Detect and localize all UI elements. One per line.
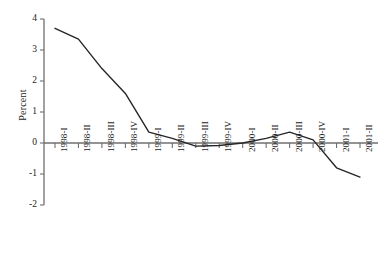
x-tick-label: 2000-IV	[317, 121, 327, 152]
x-tick-label: 1999-III	[200, 121, 210, 152]
data-series-line	[55, 28, 360, 177]
chart-container: Percent 43210-1-2 1998-I1998-II1998-III1…	[0, 0, 384, 260]
y-tick-label: 3	[17, 45, 37, 55]
y-tick-label: 1	[17, 107, 37, 117]
axis-group	[44, 19, 378, 205]
y-tick-label: -1	[17, 169, 37, 179]
x-tick-label: 2001-II	[364, 124, 374, 152]
y-tick-label: 4	[17, 14, 37, 24]
y-tick-label: -2	[17, 200, 37, 210]
y-tick-label: 2	[17, 76, 37, 86]
x-tick-label: 1999-II	[176, 124, 186, 152]
y-tick-label: 0	[17, 138, 37, 148]
x-tick-label: 1998-III	[106, 121, 116, 152]
x-tick-label: 2001-I	[341, 127, 351, 152]
x-tick-label: 1998-IV	[129, 121, 139, 152]
x-tick-label: 1998-I	[59, 127, 69, 152]
x-tick-label: 1998-II	[82, 124, 92, 152]
x-tick-label: 2000-II	[270, 124, 280, 152]
x-tick-label: 1999-IV	[223, 121, 233, 152]
x-tick-label: 1999-I	[153, 127, 163, 152]
tick-marks	[40, 19, 360, 205]
x-tick-label: 2000-III	[294, 121, 304, 152]
x-tick-label: 2000-I	[247, 127, 257, 152]
